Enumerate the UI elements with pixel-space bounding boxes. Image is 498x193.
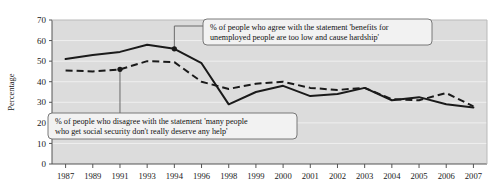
x-axis-tick-label: 2001 [302, 171, 319, 181]
x-axis-tick-label: 2000 [275, 171, 292, 181]
x-axis-tick-label: 1987 [57, 171, 75, 181]
x-axis-tick-label: 1999 [247, 171, 264, 181]
y-axis-tick-label: 40 [37, 77, 47, 87]
annotation-agree-line1: % of people who agree with the statement… [210, 23, 389, 32]
x-axis-tick-label: 2007 [465, 171, 483, 181]
y-axis-tick-label: 60 [37, 36, 47, 46]
y-axis-title: Percentage [6, 73, 16, 111]
x-axis-tick-label: 2005 [410, 171, 427, 181]
annotation-agree-line2: unemployed people are too low and cause … [210, 33, 380, 42]
y-axis-tick-label: 20 [37, 118, 47, 128]
x-axis-tick-label: 2002 [329, 171, 346, 181]
annotation-disagree-anchor-dot [117, 67, 122, 72]
x-axis-tick-label: 2006 [438, 171, 456, 181]
x-axis-tick-label: 1998 [220, 171, 237, 181]
y-axis-tick-label: 0 [42, 159, 47, 169]
x-axis-tick-label: 1991 [111, 171, 128, 181]
x-axis-tick-label: 2003 [356, 171, 373, 181]
chart-container: 010203040506070 198719891991199319941996… [0, 0, 498, 193]
x-axis-tick-label: 1996 [193, 171, 211, 181]
y-axis-tick-label: 30 [37, 97, 47, 107]
percentage-line-chart: 010203040506070 198719891991199319941996… [0, 0, 498, 193]
y-axis-tick-label: 10 [37, 139, 47, 149]
x-axis-tick-label: 1994 [166, 171, 184, 181]
x-axis-tick-label: 1989 [84, 171, 101, 181]
annotation-disagree-line1: % of people who disagree with the statem… [55, 117, 248, 126]
annotation-disagree-line2: who get social security don't really des… [55, 127, 228, 136]
x-axis-tick-label: 2004 [383, 171, 401, 181]
annotation-agree-anchor-dot [172, 46, 177, 51]
y-axis-tick-label: 50 [37, 56, 47, 66]
y-axis-tick-label: 70 [37, 15, 47, 25]
x-axis-tick-label: 1993 [139, 171, 156, 181]
